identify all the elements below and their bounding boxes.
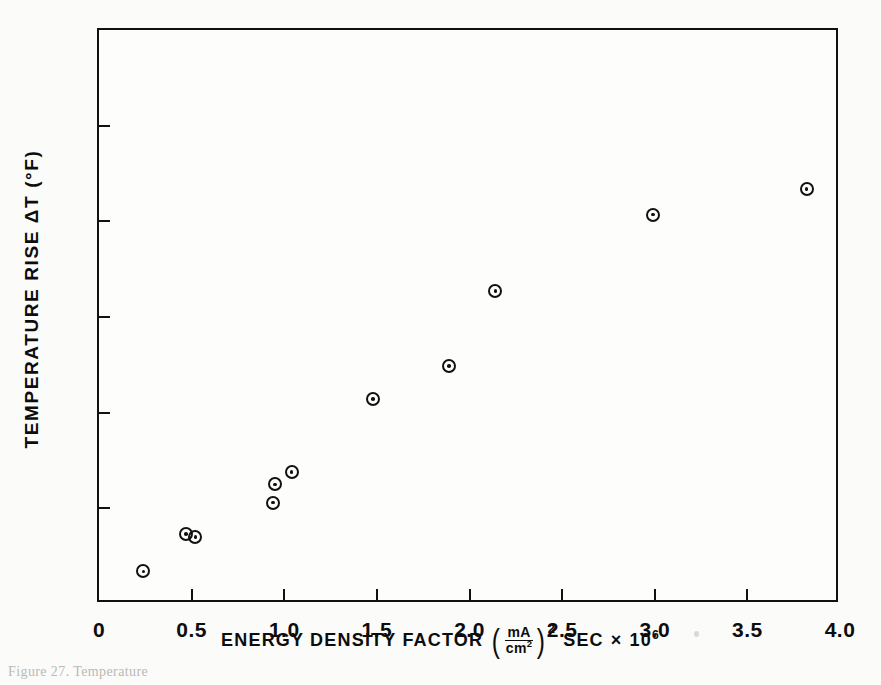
data-point [268,477,282,491]
right-paren: ) [537,627,546,654]
data-point [442,359,456,373]
unit-fraction: mAcm2 [503,625,535,655]
x-axis-title-lead: ENERGY DENSITY FACTOR [221,630,483,650]
data-point [136,564,150,578]
x-axis-title-sec: SEC [563,630,604,650]
figure-caption-remnant: Figure 27. Temperature [8,664,308,679]
paren-exponent: 2 [548,621,556,636]
data-point [800,182,814,196]
data-point [646,208,660,222]
left-paren: ( [492,627,501,654]
x-axis-title: ENERGY DENSITY FACTOR(mAcm2)2SEC×106 [0,626,881,656]
data-point [266,496,280,510]
x-axis-title-power-base: 10 [630,630,652,650]
denominator-exponent: 2 [527,638,533,649]
x-axis-title-times: × [611,630,623,650]
data-point [488,284,502,298]
y-axis-title: TEMPERATURE RISE ΔT (°F) [21,39,43,559]
plot-frame: 0 10 20 30 40 50 60 0 0.5 1.0 1.5 2.0 2.… [97,28,838,602]
x-axis-title-power-exponent: 6 [652,628,660,642]
data-point [366,392,380,406]
fraction-denominator: cm2 [504,641,534,656]
data-point [188,530,202,544]
figure-page: TEMPERATURE RISE ΔT (°F) 0 10 20 30 40 5… [0,0,881,685]
x-axis-unit-group: (mAcm2)2 [490,625,556,655]
scatter-data-layer [99,30,836,600]
data-point [285,465,299,479]
